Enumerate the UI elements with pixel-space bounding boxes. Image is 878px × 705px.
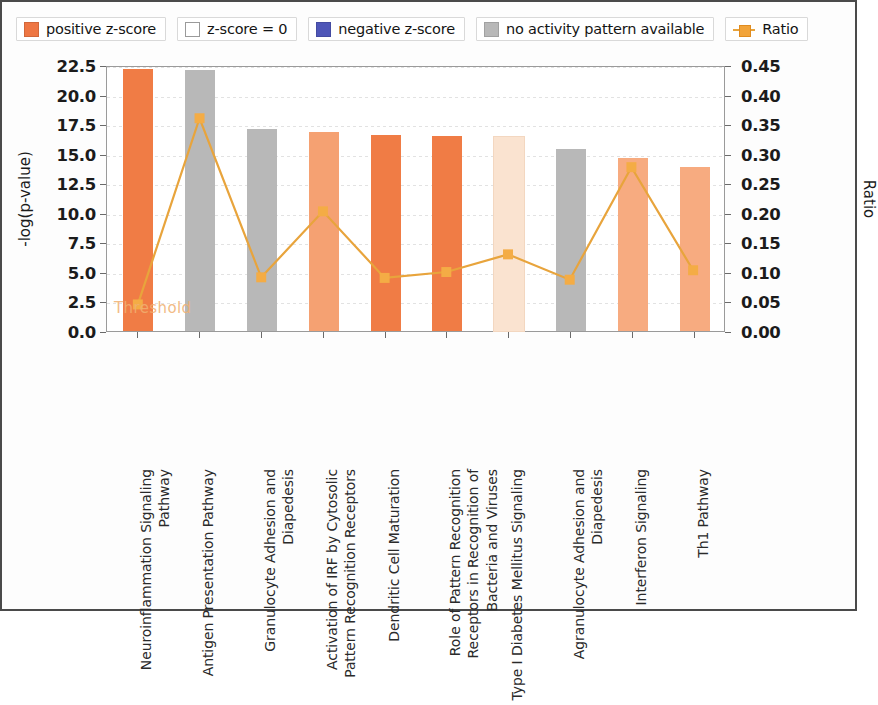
- y-axis-left-tick: 22.5: [56, 57, 96, 76]
- x-axis-tick-mark: [385, 332, 386, 338]
- x-axis-label: Granulocyte Adhesion and Diapedesis: [261, 469, 298, 705]
- x-axis-tick-mark: [261, 332, 262, 338]
- x-axis-tick-mark: [137, 332, 138, 338]
- y-axis-right-tick: 0.10: [741, 263, 781, 282]
- y-axis-left-tick: 7.5: [68, 234, 96, 253]
- x-axis-label: Dendritic Cell Maturation: [385, 469, 403, 705]
- y-axis-right-tick: 0.30: [741, 145, 781, 164]
- bar: [432, 136, 462, 331]
- y-axis-left: -log(p-value) 0.02.55.07.510.012.515.017…: [2, 66, 106, 332]
- y-axis-left-tick: 5.0: [68, 263, 96, 282]
- threshold-annotation: Threshold: [114, 299, 192, 317]
- y-axis-left-tick-mark: [100, 155, 106, 156]
- y-axis-right-tick-mark: [725, 214, 731, 215]
- x-axis-label: Interferon Signaling: [632, 469, 650, 705]
- y-axis-left-tick-mark: [100, 214, 106, 215]
- y-axis-left-tick-mark: [100, 96, 106, 97]
- bar: [494, 137, 524, 331]
- chart-legend: positive z-scorez-score = 0negative z-sc…: [16, 13, 845, 45]
- y-axis-right-tick: 0.35: [741, 116, 781, 135]
- y-axis-left-tick: 12.5: [56, 175, 96, 194]
- x-axis-label: Activation of IRF by Cytosolic Pattern R…: [323, 469, 360, 705]
- y-axis-right-tick-mark: [725, 66, 731, 67]
- y-axis-right-tick: 0.25: [741, 175, 781, 194]
- y-axis-right-tick-mark: [725, 125, 731, 126]
- y-axis-right-tick: 0.00: [741, 323, 781, 342]
- x-axis-tick-mark: [570, 332, 571, 338]
- x-axis-tick-mark: [199, 332, 200, 338]
- plot-area: [106, 66, 725, 332]
- y-axis-left-tick: 2.5: [68, 293, 96, 312]
- x-axis-tick-mark: [508, 332, 509, 338]
- y-axis-left-tick: 0.0: [68, 323, 96, 342]
- legend-item-1[interactable]: z-score = 0: [177, 17, 297, 41]
- y-axis-right-tick-mark: [725, 96, 731, 97]
- y-axis-right-label: Ratio: [860, 139, 878, 259]
- y-axis-left-tick: 15.0: [56, 145, 96, 164]
- bar: [123, 69, 153, 331]
- bar-series: [107, 67, 724, 331]
- y-axis-left-label: -log(p-value): [16, 114, 34, 284]
- line-marker-icon: [733, 23, 755, 36]
- y-axis-left-tick: 17.5: [56, 116, 96, 135]
- x-axis-label: Th1 Pathway: [694, 469, 712, 705]
- x-axis-labels: Neuroinflammation Signaling PathwayAntig…: [106, 332, 725, 607]
- x-axis-label: Agranulocyte Adhesion and Diapedesis: [570, 469, 607, 705]
- bar: [371, 135, 401, 331]
- square-filled-icon: [24, 22, 39, 37]
- x-axis-label: Type I Diabetes Mellitus Signaling: [508, 469, 526, 705]
- x-axis-label: Antigen Presentation Pathway: [199, 469, 217, 705]
- x-axis-tick-mark: [446, 332, 447, 338]
- x-axis-tick-mark: [694, 332, 695, 338]
- y-axis-right: Ratio 0.000.050.100.150.200.250.300.350.…: [725, 66, 859, 332]
- y-axis-right-tick: 0.45: [741, 57, 781, 76]
- y-axis-left-tick-mark: [100, 66, 106, 67]
- x-axis-label: Neuroinflammation Signaling Pathway: [137, 469, 174, 705]
- legend-item-label: positive z-score: [46, 21, 156, 37]
- legend-item-3[interactable]: no activity pattern available: [476, 17, 714, 41]
- x-axis-tick-mark: [632, 332, 633, 338]
- legend-item-label: Ratio: [762, 21, 798, 37]
- legend-item-label: z-score = 0: [207, 21, 287, 37]
- y-axis-right-tick-mark: [725, 184, 731, 185]
- legend-item-label: no activity pattern available: [506, 21, 704, 37]
- y-axis-right-tick: 0.40: [741, 86, 781, 105]
- legend-item-4[interactable]: Ratio: [725, 17, 808, 41]
- legend-item-label: negative z-score: [338, 21, 455, 37]
- y-axis-right-tick: 0.05: [741, 293, 781, 312]
- legend-item-2[interactable]: negative z-score: [308, 17, 465, 41]
- legend-item-0[interactable]: positive z-score: [16, 17, 166, 41]
- bar: [247, 129, 277, 331]
- bar: [556, 149, 586, 331]
- bar: [680, 167, 710, 331]
- y-axis-right-tick: 0.20: [741, 204, 781, 223]
- x-axis-label: Role of Pattern Recognition Receptors in…: [446, 469, 501, 705]
- bar: [618, 158, 648, 331]
- y-axis-right-tick-mark: [725, 155, 731, 156]
- square-empty-icon: [185, 22, 200, 37]
- x-axis-tick-mark: [323, 332, 324, 338]
- y-axis-left-tick-mark: [100, 302, 106, 303]
- bar: [309, 132, 339, 331]
- y-axis-right-tick-mark: [725, 273, 731, 274]
- square-filled-icon: [316, 22, 331, 37]
- y-axis-left-tick-mark: [100, 273, 106, 274]
- y-axis-left-tick: 20.0: [56, 86, 96, 105]
- y-axis-left-tick: 10.0: [56, 204, 96, 223]
- bar: [185, 70, 215, 331]
- square-filled-icon: [484, 22, 499, 37]
- y-axis-right-tick: 0.15: [741, 234, 781, 253]
- y-axis-left-tick-mark: [100, 184, 106, 185]
- y-axis-right-tick-mark: [725, 332, 731, 333]
- y-axis-left-tick-mark: [100, 243, 106, 244]
- y-axis-right-tick-mark: [725, 302, 731, 303]
- y-axis-right-tick-mark: [725, 243, 731, 244]
- y-axis-left-tick-mark: [100, 125, 106, 126]
